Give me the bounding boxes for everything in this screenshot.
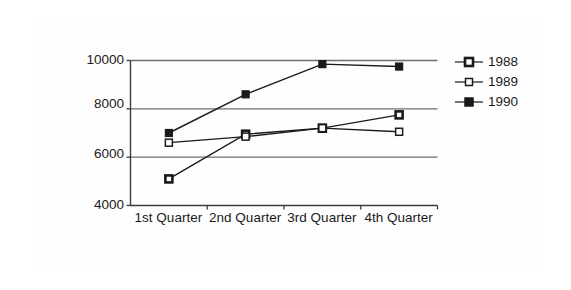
x-axis-tick-labels: 1st Quarter 2nd Quarter 3rd Quarter 4th …: [130, 211, 437, 231]
legend-marker-1988-icon: [455, 55, 483, 69]
y-tick-label-4000: 4000: [94, 198, 124, 212]
y-axis-tick-labels: 10000 8000 6000 4000: [62, 0, 124, 290]
chart-figure: 10000 8000 6000 4000 1st Quarter 2nd Qua…: [0, 0, 571, 290]
legend-marker-1990-icon: [455, 95, 483, 109]
y-tick-label-8000: 8000: [94, 97, 124, 111]
y-tick-label-10000: 10000: [86, 53, 124, 67]
legend-label-1988: 1988: [488, 55, 518, 69]
y-tick-label-6000: 6000: [94, 147, 124, 161]
x-tick-label-q1: 1st Quarter: [130, 211, 207, 231]
legend-item-1988[interactable]: 1988: [455, 52, 535, 72]
x-tick-label-q4: 4th Quarter: [360, 211, 437, 231]
legend-label-1990: 1990: [488, 95, 518, 109]
legend-item-1989[interactable]: 1989: [455, 72, 535, 92]
legend-label-1989: 1989: [488, 75, 518, 89]
x-tick-label-q3: 3rd Quarter: [284, 211, 361, 231]
legend-marker-1989-icon: [455, 75, 483, 89]
x-tick-label-q2: 2nd Quarter: [207, 211, 284, 231]
chart-legend: 1988 1989 1990: [455, 52, 535, 112]
legend-item-1990[interactable]: 1990: [455, 92, 535, 112]
